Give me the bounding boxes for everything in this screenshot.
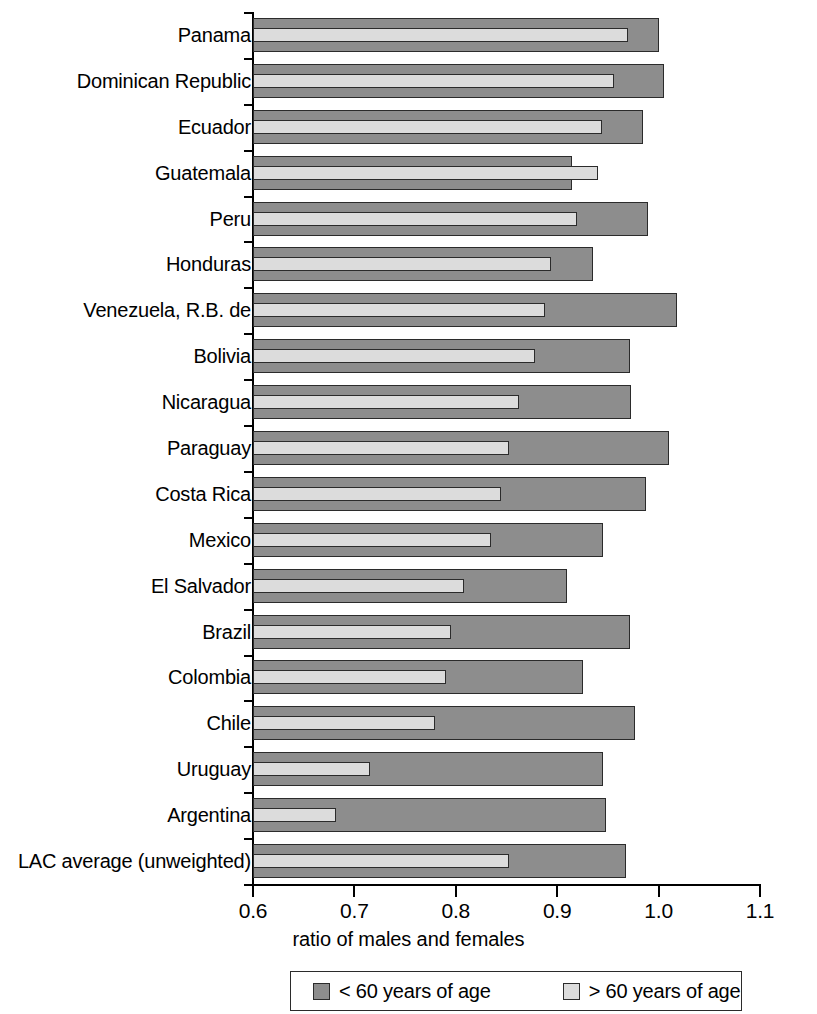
x-axis-tick-label: 0.9 <box>543 899 572 923</box>
bar-over-60 <box>253 716 435 730</box>
bar-over-60 <box>253 533 491 547</box>
category-label: Ecuador <box>178 116 251 138</box>
y-axis-tick <box>244 150 254 152</box>
category-label: Argentina <box>167 804 251 826</box>
category-label: Chile <box>206 712 251 734</box>
y-axis-tick <box>244 563 254 565</box>
category-label: Honduras <box>166 253 251 275</box>
category-label: LAC average (unweighted) <box>18 850 251 872</box>
category-label: El Salvador <box>151 575 251 597</box>
x-axis-tick <box>252 886 254 897</box>
x-axis-tick <box>556 886 558 897</box>
bar-over-60 <box>253 854 509 868</box>
x-axis-tick <box>658 886 660 897</box>
x-axis-title: ratio of males and females <box>0 928 817 951</box>
legend-swatch-over-60 <box>563 983 580 1000</box>
bar-over-60 <box>253 120 602 134</box>
y-axis-tick <box>244 746 254 748</box>
category-label: Mexico <box>189 529 251 551</box>
bar-over-60 <box>253 349 535 363</box>
x-axis-tick-label: 0.8 <box>442 899 471 923</box>
bar-over-60 <box>253 28 628 42</box>
bar-over-60 <box>253 303 545 317</box>
bar-over-60 <box>253 670 446 684</box>
y-axis-tick <box>244 471 254 473</box>
category-label: Paraguay <box>167 437 251 459</box>
y-axis-tick <box>244 792 254 794</box>
x-axis-line <box>252 884 761 886</box>
x-axis-tick <box>759 886 761 897</box>
y-axis-tick <box>244 12 254 14</box>
bar-over-60 <box>253 487 501 501</box>
category-label: Bolivia <box>193 345 251 367</box>
category-label: Guatemala <box>155 162 251 184</box>
bar-over-60 <box>253 808 336 822</box>
y-axis-tick <box>244 241 254 243</box>
legend-label-over-60: > 60 years of age <box>589 980 741 1003</box>
y-axis-tick <box>244 196 254 198</box>
bar-over-60 <box>253 625 451 639</box>
bar-over-60 <box>253 74 614 88</box>
y-axis-tick <box>244 425 254 427</box>
bar-over-60 <box>253 579 464 593</box>
legend-swatch-under-60 <box>313 983 330 1000</box>
x-axis-tick-label: 0.6 <box>239 899 268 923</box>
category-label: Costa Rica <box>155 483 251 505</box>
x-axis-tick-label: 1.0 <box>644 899 673 923</box>
bar-chart: 0.60.70.80.91.01.1 PanamaDominican Repub… <box>0 0 817 1014</box>
category-label: Colombia <box>168 666 251 688</box>
y-axis-tick <box>244 700 254 702</box>
category-label: Venezuela, R.B. de <box>83 299 251 321</box>
category-label: Peru <box>210 208 251 230</box>
bar-over-60 <box>253 762 370 776</box>
y-axis-tick <box>244 655 254 657</box>
category-label: Nicaragua <box>162 391 251 413</box>
y-axis-tick <box>244 838 254 840</box>
x-axis-tick <box>353 886 355 897</box>
y-axis-tick <box>244 379 254 381</box>
bar-over-60 <box>253 212 577 226</box>
legend-item-under-60: < 60 years of age <box>313 980 491 1003</box>
category-label: Brazil <box>202 621 251 643</box>
bar-over-60 <box>253 395 519 409</box>
category-label: Dominican Republic <box>77 70 251 92</box>
x-axis-tick-label: 1.1 <box>746 899 775 923</box>
bar-over-60 <box>253 166 598 180</box>
y-axis-tick <box>244 609 254 611</box>
y-axis-tick <box>244 517 254 519</box>
legend-label-under-60: < 60 years of age <box>339 980 491 1003</box>
bar-over-60 <box>253 257 551 271</box>
category-label: Uruguay <box>177 758 251 780</box>
y-axis-tick <box>244 58 254 60</box>
bar-over-60 <box>253 441 509 455</box>
chart-legend: < 60 years of age > 60 years of age <box>290 971 742 1011</box>
x-axis-tick-label: 0.7 <box>340 899 369 923</box>
category-label: Panama <box>178 24 251 46</box>
x-axis-tick <box>455 886 457 897</box>
legend-item-over-60: > 60 years of age <box>563 980 741 1003</box>
y-axis-tick <box>244 104 254 106</box>
y-axis-tick <box>244 333 254 335</box>
y-axis-tick <box>244 287 254 289</box>
